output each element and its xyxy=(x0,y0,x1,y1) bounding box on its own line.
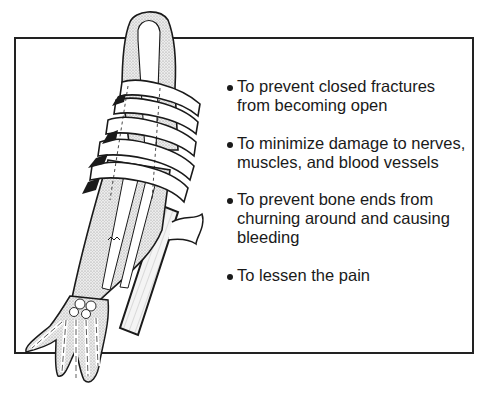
item-line: from becoming open xyxy=(237,96,387,114)
list-item: To lessen the pain xyxy=(227,266,477,285)
item-line: To minimize damage to nerves, xyxy=(237,134,465,152)
item-line: muscles, and blood vessels xyxy=(237,153,439,171)
purpose-list: To prevent closed fractures from becomin… xyxy=(227,77,477,304)
item-line: To prevent closed fractures xyxy=(237,77,435,95)
item-line: churning around and causing xyxy=(237,209,450,227)
item-line: To prevent bone ends from xyxy=(237,190,433,208)
list-item: To prevent closed fractures from becomin… xyxy=(227,77,477,115)
list-item: To minimize damage to nerves, muscles, a… xyxy=(227,134,477,172)
item-line: bleeding xyxy=(237,228,299,246)
item-line: To lessen the pain xyxy=(237,266,370,284)
list-item: To prevent bone ends from churning aroun… xyxy=(227,190,477,247)
hand xyxy=(26,296,109,382)
